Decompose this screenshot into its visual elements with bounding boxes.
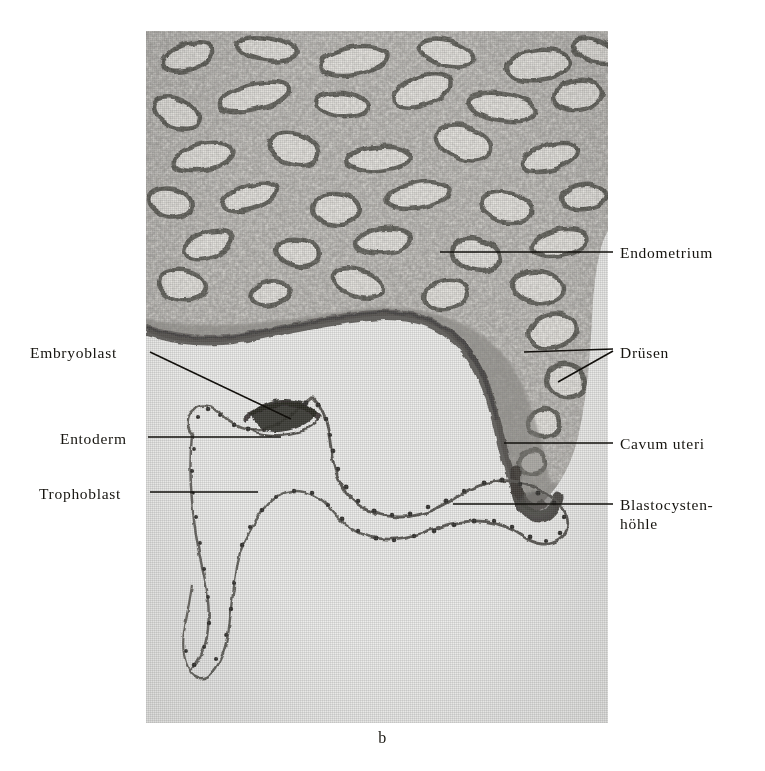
label-endometrium: Endometrium	[620, 243, 713, 262]
micrograph-svg	[146, 31, 608, 723]
label-blastocystenhoehle-line2: höhle	[620, 514, 658, 533]
label-druesen: Drüsen	[620, 343, 669, 362]
micrograph-plate	[146, 31, 608, 723]
label-trophoblast: Trophoblast	[39, 484, 121, 503]
label-entoderm: Entoderm	[60, 429, 127, 448]
figure-page: Embryoblast Entoderm Trophoblast Endomet…	[0, 0, 765, 771]
label-cavum-uteri: Cavum uteri	[620, 434, 705, 453]
label-embryoblast: Embryoblast	[30, 343, 117, 362]
label-blastocystenhoehle-line1: Blastocysten-	[620, 495, 713, 514]
figure-caption: b	[0, 729, 765, 747]
